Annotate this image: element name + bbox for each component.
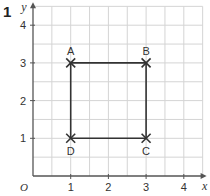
origin-label: O [20,181,28,193]
y-tick-label: 1 [20,132,26,144]
point-a: A [66,45,75,68]
point-d: D [66,134,75,158]
y-tick-label: 4 [20,19,26,31]
point-label: B [142,45,149,57]
y-axis-arrow-icon [30,2,36,8]
x-axis-label: x [201,179,208,193]
x-tick-label: 3 [143,181,149,193]
point-c: C [142,134,151,158]
y-tick-label: 2 [20,95,26,107]
axes [30,2,207,179]
point-label: D [67,145,75,157]
point-b: B [142,45,151,68]
point-label: C [142,145,150,157]
axis-labels: 12341234Oxy [20,0,208,193]
point-label: A [67,45,75,57]
x-tick-label: 4 [181,181,187,193]
y-tick-label: 3 [20,57,26,69]
y-axis-label: y [20,0,27,14]
grid-lines [33,6,203,176]
x-tick-label: 1 [68,181,74,193]
coordinate-grid-diagram: ABCD 12341234Oxy [0,0,210,196]
x-tick-label: 2 [105,181,111,193]
